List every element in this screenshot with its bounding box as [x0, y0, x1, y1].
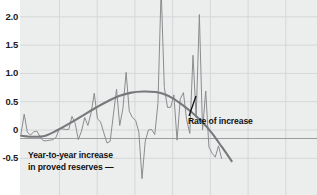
y-axis-tick-neg0-5: -0.5 [0, 153, 18, 163]
y-axis-tick-0neg5: 0.5 [0, 97, 18, 107]
annotation-rate-of-increase: Rate of increase [188, 116, 253, 128]
annotation-proved-reserves-line2: in proved reserves — [28, 162, 113, 174]
y-axis-tick-1neg5: 1.5 [0, 40, 18, 50]
annotation-proved-reserves: Year-to-year increase in proved reserves… [28, 150, 113, 173]
y-axis-tick-2neg0: 2.0 [0, 12, 18, 22]
horizontal-gridlines [20, 0, 317, 158]
annotation-proved-reserves-line1: Year-to-year increase [28, 150, 113, 162]
y-axis-tick-1neg0: 1.0 [0, 68, 18, 78]
y-axis-tick-0: 0 [0, 125, 18, 135]
reserves-chart: 2.52.01.51.00.50-0.5 Year-to-year increa… [0, 0, 317, 195]
